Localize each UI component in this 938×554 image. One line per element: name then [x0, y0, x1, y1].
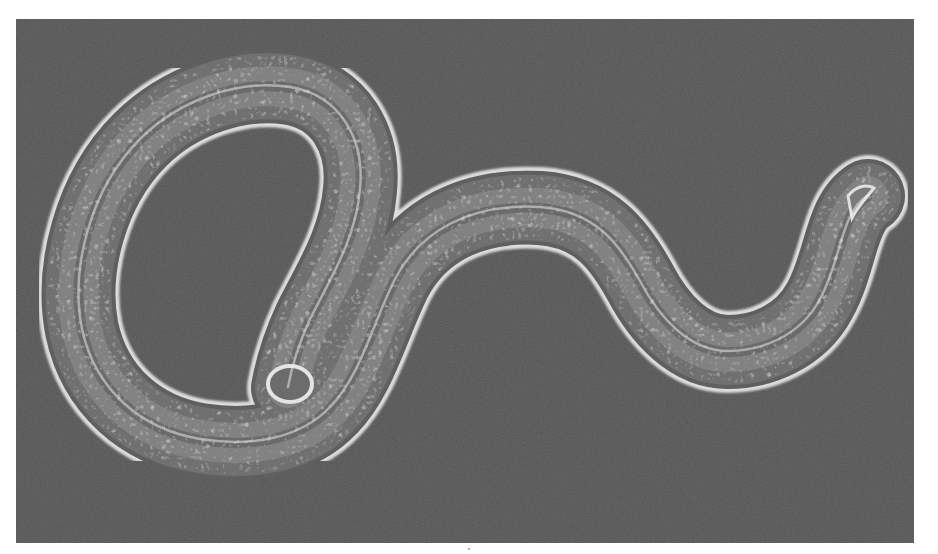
dust-speck [468, 548, 470, 550]
worm-head [268, 366, 312, 402]
nematode-illustration [16, 19, 914, 543]
micrograph-frame [16, 19, 914, 543]
page [0, 0, 938, 554]
worm-granules [16, 19, 914, 543]
